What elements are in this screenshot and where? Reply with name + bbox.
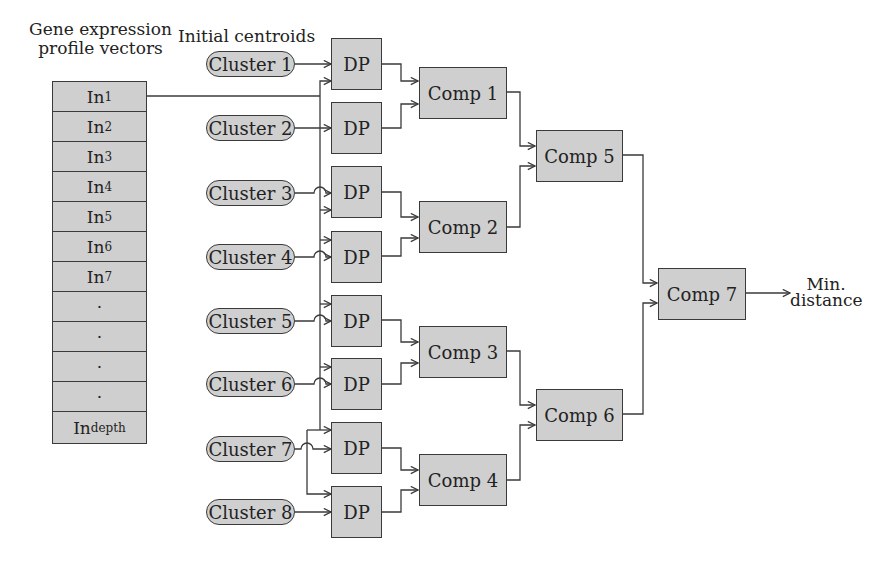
comparator-3: Comp 3 bbox=[419, 326, 507, 378]
comparator-6: Comp 6 bbox=[536, 389, 623, 441]
vector-cell: · bbox=[52, 321, 147, 352]
vector-label: · bbox=[97, 327, 102, 347]
vector-cell: In1 bbox=[52, 81, 147, 112]
dp-block: DP bbox=[331, 422, 382, 474]
vector-subscript: 4 bbox=[105, 180, 113, 194]
vector-subscript: 6 bbox=[105, 240, 113, 254]
vector-label: In bbox=[87, 177, 105, 197]
vector-label: · bbox=[97, 357, 102, 377]
vector-cell: In3 bbox=[52, 141, 147, 172]
vector-cell: Indepth bbox=[52, 411, 147, 444]
vector-label: In bbox=[87, 207, 105, 227]
vector-subscript: 2 bbox=[105, 120, 113, 134]
vector-cell: · bbox=[52, 291, 147, 322]
vector-subscript: 7 bbox=[105, 270, 113, 284]
vector-cell: In2 bbox=[52, 111, 147, 142]
dp-block: DP bbox=[331, 486, 382, 538]
cluster-node: Cluster 2 bbox=[206, 115, 295, 141]
output-label: Min. distance bbox=[790, 276, 862, 308]
vector-cell: In7 bbox=[52, 261, 147, 292]
comparator-2: Comp 2 bbox=[419, 201, 507, 253]
comparator-7: Comp 7 bbox=[658, 268, 746, 320]
comparator-4: Comp 4 bbox=[419, 454, 507, 506]
cluster-node: Cluster 1 bbox=[206, 51, 295, 77]
dp-block: DP bbox=[331, 102, 382, 154]
vector-subscript: 3 bbox=[105, 150, 113, 164]
comparator-1: Comp 1 bbox=[419, 67, 507, 119]
cluster-node: Cluster 8 bbox=[206, 499, 295, 525]
vector-label: In bbox=[73, 418, 91, 438]
cluster-node: Cluster 3 bbox=[206, 180, 295, 206]
vector-label: In bbox=[87, 147, 105, 167]
vector-label: In bbox=[87, 87, 105, 107]
vector-cell: In5 bbox=[52, 201, 147, 232]
cluster-node: Cluster 5 bbox=[206, 308, 295, 334]
cluster-node: Cluster 7 bbox=[206, 436, 295, 462]
dp-block: DP bbox=[331, 38, 382, 90]
vector-label: In bbox=[87, 237, 105, 257]
vector-subscript: 1 bbox=[105, 90, 113, 104]
dp-block: DP bbox=[331, 295, 382, 347]
vector-cell: In4 bbox=[52, 171, 147, 202]
vector-label: In bbox=[87, 117, 105, 137]
vector-label: In bbox=[87, 267, 105, 287]
dp-block: DP bbox=[331, 231, 382, 283]
vector-subscript: 5 bbox=[105, 210, 113, 224]
output-label-line2: distance bbox=[790, 292, 862, 308]
cluster-node: Cluster 4 bbox=[206, 244, 295, 270]
dp-block: DP bbox=[331, 166, 382, 218]
vector-cell: In6 bbox=[52, 231, 147, 262]
vector-label: · bbox=[97, 297, 102, 317]
vector-label: · bbox=[97, 387, 102, 407]
vector-cell: · bbox=[52, 351, 147, 382]
vector-cell: · bbox=[52, 381, 147, 412]
comparator-5: Comp 5 bbox=[536, 130, 623, 182]
vector-subscript: depth bbox=[91, 421, 126, 435]
dp-block: DP bbox=[331, 358, 382, 410]
cluster-node: Cluster 6 bbox=[206, 371, 295, 397]
